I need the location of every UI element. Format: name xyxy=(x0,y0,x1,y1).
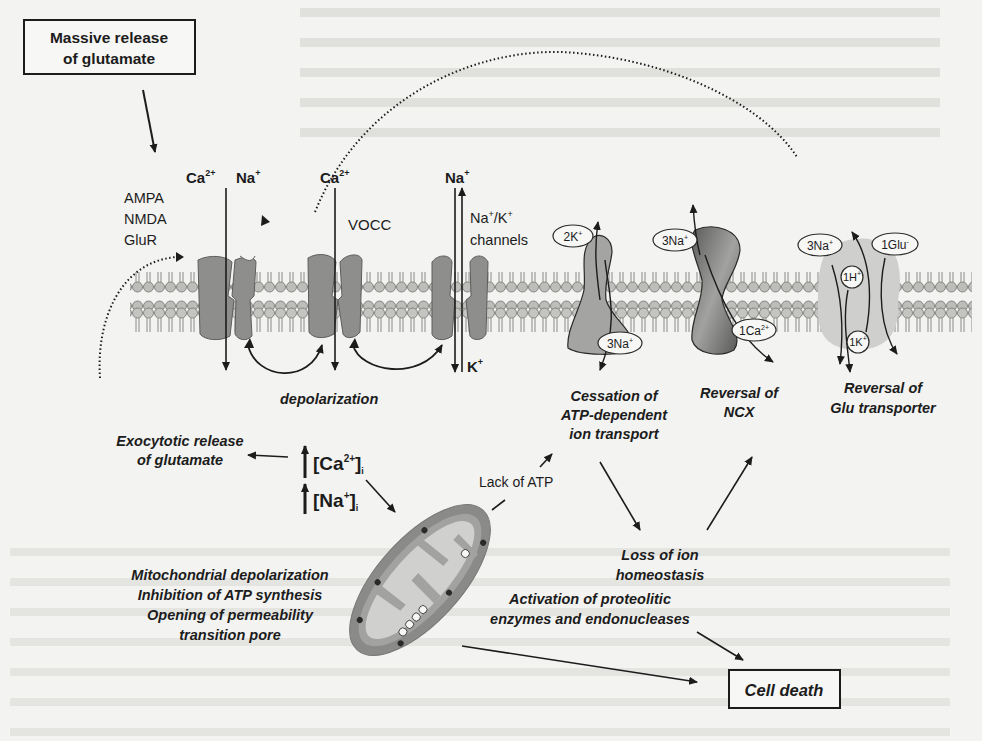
ion-ca-label-2: Ca2+ xyxy=(320,168,349,186)
svg-text:Loss of ion: Loss of ion xyxy=(621,547,698,563)
arrow-to-receptors xyxy=(143,90,155,152)
svg-text:of glutamate: of glutamate xyxy=(137,452,223,468)
na-intracellular-label: [Na+]i xyxy=(313,490,358,513)
svg-text:transition pore: transition pore xyxy=(179,627,281,643)
svg-text:of glutamate: of glutamate xyxy=(63,50,156,67)
svg-text:GluR: GluR xyxy=(124,232,157,248)
depolarization-arc-1 xyxy=(248,345,322,373)
svg-text:Inhibition of ATP synthesis: Inhibition of ATP synthesis xyxy=(138,587,323,603)
dotted-arc-head xyxy=(261,215,270,226)
svg-text:Cell death: Cell death xyxy=(745,681,824,699)
svg-text:NCX: NCX xyxy=(724,404,756,420)
svg-text:Glu transporter: Glu transporter xyxy=(830,400,937,416)
massive-release-box: Massive release of glutamate xyxy=(24,20,195,74)
svg-text:K+: K+ xyxy=(467,357,483,375)
svg-text:Lack of ATP: Lack of ATP xyxy=(479,474,553,490)
ion-na-label-3: Na+ xyxy=(445,168,469,186)
svg-text:NMDA: NMDA xyxy=(124,211,167,227)
svg-text:Opening of permeability: Opening of permeability xyxy=(147,607,314,623)
svg-text:Cessation of: Cessation of xyxy=(570,388,659,404)
svg-text:Activation of proteolitic: Activation of proteolitic xyxy=(508,591,671,607)
svg-text:ATP-dependent: ATP-dependent xyxy=(560,407,668,423)
diagram-svg: Massive release of glutamate Ca2+ Na+ AM… xyxy=(0,0,982,741)
ca-intracellular-label: [Ca2+]i xyxy=(313,453,364,476)
svg-text:depolarization: depolarization xyxy=(280,391,378,407)
ion-ca-label-1: Ca2+ xyxy=(186,168,215,186)
svg-text:Reversal of: Reversal of xyxy=(700,385,780,401)
svg-text:AMPA: AMPA xyxy=(124,190,164,206)
svg-text:homeostasis: homeostasis xyxy=(616,567,705,583)
glutamate-receptor-channel xyxy=(198,256,256,340)
cell-death-box: Cell death xyxy=(729,670,840,708)
background-text xyxy=(10,8,950,736)
svg-text:Exocytotic release: Exocytotic release xyxy=(116,433,243,449)
ion-na-label-1: Na+ xyxy=(236,168,260,186)
svg-text:ion transport: ion transport xyxy=(569,426,660,442)
svg-text:Mitochondrial depolarization: Mitochondrial depolarization xyxy=(131,567,329,583)
svg-text:Massive release: Massive release xyxy=(50,29,168,46)
svg-text:Reversal of: Reversal of xyxy=(844,380,924,396)
svg-text:channels: channels xyxy=(470,232,528,248)
svg-text:enzymes and endonucleases: enzymes and endonucleases xyxy=(490,611,690,627)
excitotoxicity-diagram: Massive release of glutamate Ca2+ Na+ AM… xyxy=(0,0,982,741)
svg-text:1Glu-: 1Glu- xyxy=(881,238,909,252)
depolarization-arc-2 xyxy=(353,345,442,369)
svg-text:Na+/K+: Na+/K+ xyxy=(470,209,513,226)
svg-text:VOCC: VOCC xyxy=(348,216,392,233)
